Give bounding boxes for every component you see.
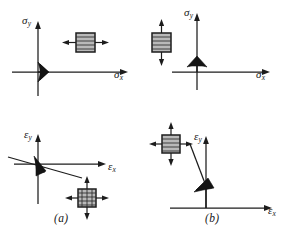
panel-caption-b: (b) [205, 212, 219, 224]
b-strain-vector [194, 178, 214, 208]
a-strain-y-axis-label: εy [24, 128, 32, 142]
a-stress-y-axis [35, 21, 41, 96]
a-stress-x-axis [12, 69, 128, 75]
b-strain-element-arrow-up [168, 122, 173, 135]
a-strain-element-arrow-left [65, 195, 78, 200]
b-stress-vector [187, 56, 207, 72]
b-stress-element [152, 19, 171, 66]
b-strain-element-arrow-left [149, 141, 162, 146]
a-strain-guide-line [8, 157, 82, 178]
a-stress-x-axis-label: σx [114, 68, 123, 82]
diagram-a-strain: εy εx [0, 116, 146, 233]
b-strain-x-axis-label: εx [268, 204, 276, 218]
stress-strain-figure: σy σx [0, 0, 292, 233]
panel-caption-a: (a) [54, 212, 68, 224]
b-strain-element [149, 122, 193, 166]
a-strain-element-arrow-up [84, 176, 89, 189]
b-strain-leader-line [190, 144, 206, 186]
a-stress-vector [38, 62, 49, 82]
diagram-a-stress: σy σx [0, 0, 146, 116]
a-strain-element [65, 176, 109, 220]
a-stress-element-arrow-left [62, 40, 76, 45]
b-stress-x-axis-label: σx [256, 68, 265, 82]
b-stress-element-arrow-up [159, 19, 164, 33]
a-strain-element-arrow-right [96, 195, 109, 200]
a-stress-y-axis-label: σy [22, 14, 31, 28]
b-stress-y-axis [194, 13, 200, 90]
b-strain-y-axis-label: εy [194, 130, 202, 144]
a-stress-element [62, 33, 109, 52]
a-strain-svg [0, 116, 146, 233]
b-strain-element-arrow-down [168, 153, 173, 166]
b-stress-y-axis-label: σy [184, 6, 193, 20]
a-stress-element-arrow-right [95, 40, 109, 45]
a-strain-element-arrow-down [84, 207, 89, 220]
diagram-b-stress: σy σx [146, 0, 292, 116]
a-strain-x-axis-label: εx [108, 160, 116, 174]
b-stress-svg [146, 0, 292, 116]
a-strain-vector [34, 156, 46, 176]
b-stress-element-arrow-down [159, 52, 164, 66]
b-strain-x-axis [170, 205, 272, 211]
